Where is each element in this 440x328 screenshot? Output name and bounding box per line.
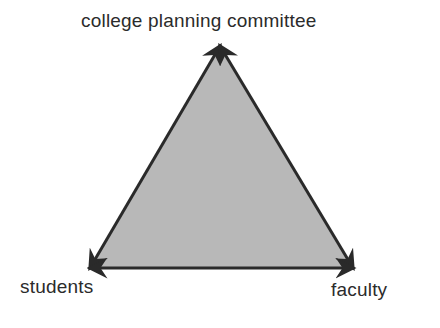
node-label-students: students	[20, 276, 93, 298]
node-label-faculty: faculty	[331, 279, 387, 301]
node-label-college-planning-committee: college planning committee	[81, 10, 316, 32]
triangle-fill	[90, 46, 353, 268]
